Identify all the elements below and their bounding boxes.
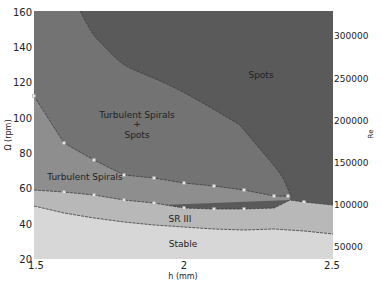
y-axis-right: 50000 100000 150000 200000 250000 300000 — [334, 31, 369, 252]
y2-tick: 300000 — [334, 31, 369, 41]
phase-diagram-chart: Spots Turbulent Spirals + Spots Turbulen… — [0, 0, 382, 287]
x-tick: 2 — [181, 260, 187, 271]
y-tick: 40 — [19, 219, 32, 230]
y2-tick: 50000 — [334, 242, 363, 252]
x-tick: 1.5 — [28, 260, 44, 271]
y-tick: 120 — [13, 77, 32, 88]
y2-tick: 250000 — [334, 74, 369, 84]
y-tick: 140 — [13, 42, 32, 53]
y2-tick: 150000 — [334, 158, 369, 168]
y-axis-left: 20 40 60 80 100 120 140 160 — [13, 7, 32, 265]
plot-area: Spots Turbulent Spirals + Spots Turbulen… — [33, 11, 334, 259]
label-spots: Spots — [248, 70, 273, 80]
label-ts-spots-line3: Spots — [124, 130, 149, 140]
y-tick: 80 — [19, 148, 32, 159]
label-turbulent-spirals: Turbulent Spirals — [46, 172, 123, 182]
x-axis: 1.5 2 2.5 — [28, 260, 340, 271]
y-axis-label: Ω (rpm) — [4, 119, 13, 150]
x-tick: 2.5 — [324, 260, 340, 271]
y2-axis-label: Re — [367, 130, 375, 139]
label-stable: Stable — [169, 239, 198, 249]
y2-tick: 200000 — [334, 116, 369, 126]
y-tick: 100 — [13, 113, 32, 124]
x-axis-label: h (mm) — [168, 272, 197, 281]
y-tick: 160 — [13, 7, 32, 18]
y-tick: 60 — [19, 183, 32, 194]
y2-tick: 100000 — [334, 200, 369, 210]
label-ts-spots-line2: + — [133, 119, 141, 129]
label-sr3: SR III — [169, 214, 192, 224]
